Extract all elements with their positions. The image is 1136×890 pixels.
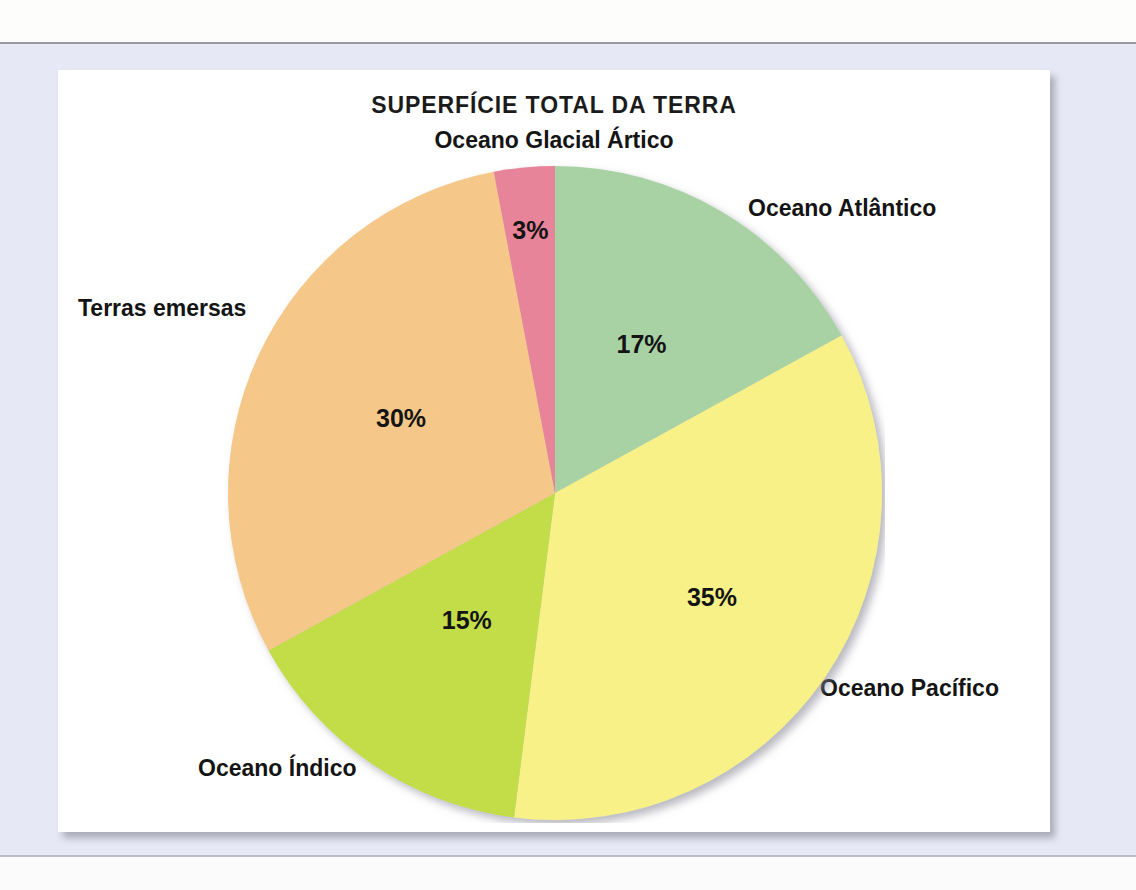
pie-value-oceano-glacial-artico: 3% [512,216,548,244]
pie-value-oceano-pacifico: 35% [687,583,737,611]
page-bottom-margin [0,857,1136,890]
slice-label-terras-emersas: Terras emersas [78,295,246,322]
chart-title: SUPERFÍCIE TOTAL DA TERRA [58,92,1050,119]
chart-card: SUPERFÍCIE TOTAL DA TERRA Oceano Glacial… [58,70,1050,832]
scanned-page: SUPERFÍCIE TOTAL DA TERRA Oceano Glacial… [0,0,1136,890]
pie-value-oceano-indico: 15% [442,606,492,634]
pie-value-terras-emersas: 30% [376,404,426,432]
pie-value-oceano-atlantico: 17% [617,330,667,358]
slice-label-oceano-glacial-artico: Oceano Glacial Ártico [58,127,1050,154]
page-top-margin [0,0,1136,42]
pie-slices-group [228,166,882,820]
pie-chart-svg: 17% 35% 15% 30% 3% [225,163,885,823]
pie-chart: 17% 35% 15% 30% 3% [225,163,885,823]
